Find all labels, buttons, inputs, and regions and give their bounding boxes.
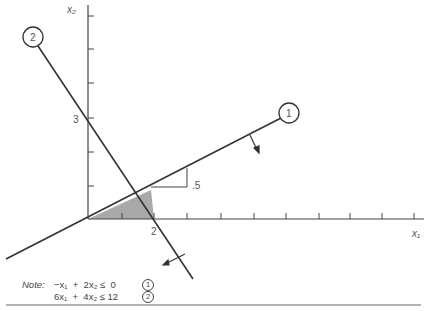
constraint-1-marker-label: 1	[286, 108, 292, 119]
note-block: Note: −x₁ + 2x₂ ≤ 0 1 6x₁ + 4x₂ ≤ 12 2	[22, 279, 154, 303]
y-ticks	[88, 16, 94, 186]
constraint-1-direction-arrow	[250, 135, 259, 153]
y-tick-label-3: 3	[73, 114, 79, 125]
note-equation-1: −x₁ + 2x₂ ≤ 0	[54, 279, 132, 291]
constraint-line-1	[6, 118, 281, 259]
x-tick-label-2: 2	[151, 226, 157, 237]
note-marker-1: 1	[142, 279, 154, 291]
y-axis-label: x₂	[66, 4, 76, 15]
constraint-line-2	[38, 46, 193, 279]
x-axis-label: x₁	[411, 228, 420, 239]
x-ticks	[122, 213, 414, 219]
note-prefix: Note:	[22, 279, 54, 291]
slope-label: .5	[192, 180, 201, 191]
note-marker-2: 2	[142, 291, 154, 303]
note-equation-2: 6x₁ + 4x₂ ≤ 12	[54, 291, 132, 303]
lp-graph: .5 1 2 x₂ x₁ 3 2	[0, 0, 430, 311]
slope-triangle	[151, 168, 187, 187]
constraint-2-marker-label: 2	[30, 32, 36, 43]
